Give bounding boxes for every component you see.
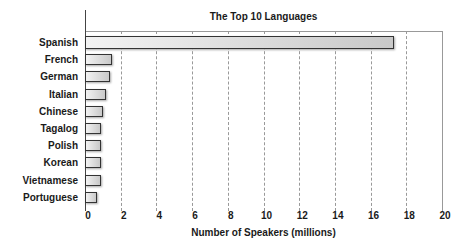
bar bbox=[85, 140, 101, 151]
bar bbox=[85, 175, 101, 186]
bar bbox=[85, 89, 106, 100]
bar bbox=[85, 54, 112, 65]
bar bbox=[85, 123, 101, 134]
bar bbox=[85, 36, 394, 49]
category-label: Korean bbox=[44, 157, 78, 169]
category-label: Vietnamese bbox=[23, 175, 78, 187]
gridline bbox=[299, 31, 300, 211]
x-axis-label: Number of Speakers (millions) bbox=[85, 227, 442, 238]
x-tick-label: 4 bbox=[144, 210, 174, 221]
category-label: French bbox=[45, 54, 78, 66]
category-label: Chinese bbox=[39, 106, 78, 118]
bar bbox=[85, 106, 103, 117]
x-tick-label: 14 bbox=[323, 210, 353, 221]
category-label: Tagalog bbox=[40, 123, 78, 135]
x-tick-label: 0 bbox=[73, 210, 103, 221]
gridline bbox=[121, 31, 122, 211]
plot-area bbox=[85, 10, 442, 211]
x-tick-label: 2 bbox=[109, 210, 139, 221]
gridline bbox=[264, 31, 265, 211]
x-tick-label: 12 bbox=[287, 210, 317, 221]
bar bbox=[85, 192, 97, 203]
gridline bbox=[156, 31, 157, 211]
x-tick-label: 16 bbox=[359, 210, 389, 221]
gridline bbox=[335, 31, 336, 211]
x-tick-label: 8 bbox=[216, 210, 246, 221]
x-tick-label: 20 bbox=[430, 210, 460, 221]
gridline bbox=[228, 31, 229, 211]
x-tick-label: 18 bbox=[394, 210, 424, 221]
plot-border-right bbox=[442, 31, 443, 211]
category-label: Italian bbox=[49, 89, 78, 101]
category-label: Spanish bbox=[39, 37, 78, 49]
x-tick-label: 6 bbox=[180, 210, 210, 221]
bar bbox=[85, 71, 110, 82]
category-label: German bbox=[40, 71, 78, 83]
x-tick-label: 10 bbox=[252, 210, 282, 221]
gridline bbox=[192, 31, 193, 211]
category-label: Portuguese bbox=[23, 192, 78, 204]
gridline bbox=[406, 31, 407, 211]
gridline bbox=[371, 31, 372, 211]
bar bbox=[85, 157, 101, 168]
category-label: Polish bbox=[48, 140, 78, 152]
